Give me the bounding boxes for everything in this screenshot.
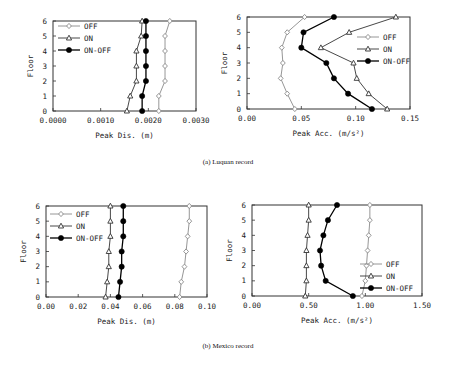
circle-marker bbox=[350, 293, 355, 298]
diamond-marker bbox=[367, 202, 372, 207]
circle-marker bbox=[368, 285, 373, 290]
chart-mexico-acceleration: 01234560.000.501.001.50Peak Acc. (m/s²)F… bbox=[0, 0, 453, 340]
circle-marker bbox=[323, 278, 328, 283]
diamond-marker bbox=[366, 233, 371, 238]
series-on-off bbox=[317, 202, 355, 298]
y-tick-label: 0 bbox=[241, 292, 246, 301]
diamond-marker bbox=[363, 278, 368, 283]
caption-b: (b) Mexico record bbox=[128, 342, 328, 350]
y-tick-label: 2 bbox=[241, 261, 246, 270]
circle-marker bbox=[317, 248, 322, 253]
legend-label: ON bbox=[386, 272, 395, 281]
series-off bbox=[360, 202, 373, 298]
y-tick-label: 3 bbox=[241, 246, 246, 255]
y-axis-label: Floor bbox=[225, 239, 234, 262]
triangle-marker bbox=[304, 278, 309, 283]
triangle-marker bbox=[304, 263, 309, 268]
x-tick-label: 1.00 bbox=[356, 301, 375, 310]
triangle-marker bbox=[304, 248, 309, 253]
x-tick-label: 0.50 bbox=[300, 301, 319, 310]
circle-marker bbox=[334, 202, 339, 207]
y-tick-label: 5 bbox=[241, 216, 246, 225]
circle-marker bbox=[321, 233, 326, 238]
series-on bbox=[303, 202, 312, 298]
plot-area bbox=[252, 205, 422, 296]
triangle-marker bbox=[305, 233, 310, 238]
diamond-marker bbox=[367, 218, 372, 223]
circle-marker bbox=[319, 263, 324, 268]
circle-marker bbox=[325, 218, 330, 223]
diamond-marker bbox=[365, 248, 370, 253]
triangle-marker bbox=[306, 217, 311, 222]
x-tick-label: 1.50 bbox=[413, 301, 432, 310]
y-tick-label: 4 bbox=[241, 231, 246, 240]
x-axis-label: Peak Acc. (m/s²) bbox=[301, 316, 373, 325]
legend-label: OFF bbox=[386, 260, 400, 269]
y-tick-label: 6 bbox=[241, 201, 246, 210]
diamond-marker bbox=[360, 293, 365, 298]
legend-label: ON-OFF bbox=[386, 284, 414, 293]
x-tick-label: 0.00 bbox=[243, 301, 262, 310]
y-tick-label: 1 bbox=[241, 276, 246, 285]
